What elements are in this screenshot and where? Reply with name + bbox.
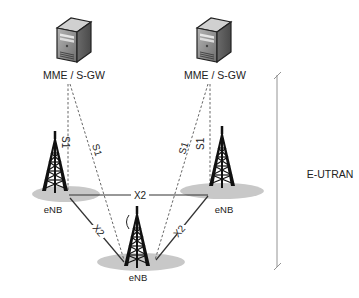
enb-left-label: eNB bbox=[44, 204, 62, 215]
x2-label-horizontal: X2 bbox=[134, 190, 147, 201]
s1-label-right-diag: S1 bbox=[176, 140, 190, 155]
s1-label-left-diag: S1 bbox=[90, 142, 104, 157]
cell-tower-icon bbox=[124, 206, 150, 268]
cell-tower-icon bbox=[209, 126, 235, 188]
enb-right-label: eNB bbox=[215, 204, 233, 215]
enb-bottom-label: eNB bbox=[129, 272, 147, 283]
s1-label-left: S1 bbox=[60, 136, 71, 149]
mme-sgw-right-label: MME / S-GW bbox=[184, 69, 246, 81]
radio-wave-icon bbox=[127, 215, 130, 229]
s1-label-right: S1 bbox=[195, 137, 206, 150]
coverage-ellipse-bottom bbox=[97, 253, 185, 271]
eutran-bracket bbox=[274, 72, 281, 270]
enb-right: eNB bbox=[209, 126, 235, 215]
enb-bottom: eNB bbox=[124, 206, 150, 283]
mme-sgw-right: MME / S-GW bbox=[184, 18, 246, 81]
eutran-label: E-UTRAN bbox=[307, 168, 354, 180]
mme-sgw-left-label: MME / S-GW bbox=[43, 69, 105, 81]
mme-sgw-left: MME / S-GW bbox=[43, 18, 105, 81]
eutran-diagram: MME / S-GW MME / S-GW eNB eNB eNB S1 S1 … bbox=[0, 0, 359, 298]
server-icon bbox=[57, 18, 91, 62]
server-icon bbox=[197, 18, 231, 62]
